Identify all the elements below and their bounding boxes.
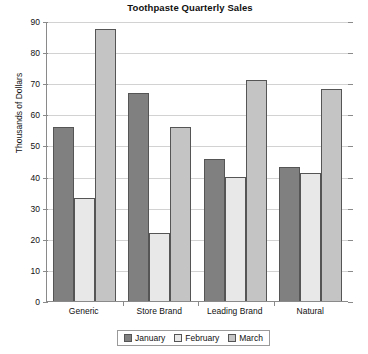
y-axis-tick-right bbox=[348, 240, 353, 241]
legend-label: March bbox=[239, 333, 263, 343]
y-axis-label: 40 bbox=[31, 173, 40, 183]
bar-group bbox=[273, 22, 348, 301]
bar[interactable] bbox=[225, 177, 246, 301]
y-axis-label: 70 bbox=[31, 79, 40, 89]
bar[interactable] bbox=[279, 167, 300, 301]
legend-swatch-icon bbox=[124, 334, 132, 342]
bar[interactable] bbox=[128, 93, 149, 301]
y-axis-tick-right bbox=[348, 178, 353, 179]
bar-group bbox=[47, 22, 122, 301]
bar-group bbox=[122, 22, 197, 301]
y-axis-tick-right bbox=[348, 271, 353, 272]
y-axis-label: 30 bbox=[31, 204, 40, 214]
y-axis-tick-right bbox=[348, 146, 353, 147]
bar[interactable] bbox=[95, 29, 116, 301]
bar-group bbox=[198, 22, 273, 301]
y-axis-label: 60 bbox=[31, 110, 40, 120]
y-axis-label: 50 bbox=[31, 141, 40, 151]
y-axis-title: Thousands of Dollars bbox=[14, 38, 24, 188]
x-axis-label: Store Brand bbox=[122, 306, 198, 316]
y-axis-tick-right bbox=[348, 302, 353, 303]
y-axis-tick-right bbox=[348, 115, 353, 116]
bar[interactable] bbox=[246, 80, 267, 301]
y-axis-label: 10 bbox=[31, 266, 40, 276]
y-axis-label: 20 bbox=[31, 235, 40, 245]
bar[interactable] bbox=[321, 89, 342, 301]
chart-title: Toothpaste Quarterly Sales bbox=[30, 2, 350, 13]
bar[interactable] bbox=[53, 127, 74, 301]
bar[interactable] bbox=[170, 127, 191, 301]
bar[interactable] bbox=[149, 233, 170, 301]
bar[interactable] bbox=[300, 173, 321, 301]
chart-legend: JanuaryFebruaryMarch bbox=[117, 330, 270, 346]
y-axis-tick bbox=[43, 302, 48, 303]
x-axis-label: Generic bbox=[46, 306, 122, 316]
legend-item[interactable]: February bbox=[174, 333, 219, 343]
y-axis-label: 80 bbox=[31, 48, 40, 58]
y-axis-label: 90 bbox=[31, 17, 40, 27]
legend-swatch-icon bbox=[228, 334, 236, 342]
x-axis-label: Leading Brand bbox=[197, 306, 273, 316]
legend-item[interactable]: March bbox=[228, 333, 263, 343]
bar-groups bbox=[47, 22, 348, 301]
y-axis-tick-right bbox=[348, 84, 353, 85]
legend-label: February bbox=[185, 333, 219, 343]
legend-item[interactable]: January bbox=[124, 333, 165, 343]
bar[interactable] bbox=[204, 159, 225, 301]
x-axis-label: Natural bbox=[273, 306, 349, 316]
y-axis-label: 0 bbox=[35, 297, 40, 307]
legend-swatch-icon bbox=[174, 334, 182, 342]
y-axis-tick-right bbox=[348, 53, 353, 54]
bar[interactable] bbox=[74, 198, 95, 301]
bar-chart: Toothpaste Quarterly Sales Thousands of … bbox=[0, 0, 368, 354]
legend-label: January bbox=[135, 333, 165, 343]
plot-area: 0102030405060708090 bbox=[46, 22, 348, 302]
y-axis-tick-right bbox=[348, 209, 353, 210]
y-axis-tick-right bbox=[348, 22, 353, 23]
